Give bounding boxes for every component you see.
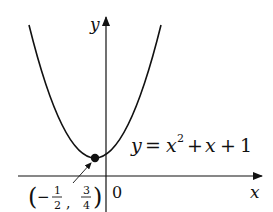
svg-text:3: 3 [83, 184, 90, 197]
x-axis-label: x [250, 182, 260, 202]
vertex-point [91, 154, 99, 162]
svg-text:1: 1 [240, 134, 252, 156]
y-axis-label: y [89, 14, 100, 34]
svg-text:4: 4 [83, 199, 90, 212]
svg-text:2: 2 [177, 132, 184, 145]
svg-text:−: − [37, 188, 50, 206]
vertex-label: ( − 1 2 , 3 4 ) [28, 183, 102, 212]
svg-text:1: 1 [54, 184, 61, 197]
svg-text:x: x [205, 134, 216, 156]
equation-label: y = x 2 + x + 1 [130, 132, 252, 156]
svg-text:(: ( [28, 183, 37, 211]
vertex-pointer-arrow [73, 163, 91, 183]
svg-text:y: y [130, 134, 142, 156]
svg-text:=: = [145, 134, 161, 156]
svg-text:+: + [220, 134, 236, 156]
svg-text:2: 2 [54, 199, 61, 212]
origin-label: 0 [112, 183, 122, 202]
svg-text:x: x [166, 134, 177, 156]
svg-text:+: + [187, 134, 203, 156]
svg-text:,: , [66, 195, 70, 211]
svg-text:): ) [93, 183, 102, 211]
parabola-chart: y x 0 y = x 2 + x + 1 ( − 1 2 , 3 4 ) [0, 0, 273, 212]
